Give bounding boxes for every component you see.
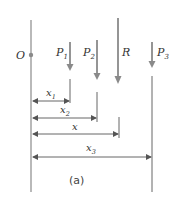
- force-diagram: O P1 P2 R P3 x1 x2 x: [0, 0, 177, 200]
- force-p1-label: P1: [55, 46, 68, 61]
- arrow-down-icon: [149, 61, 156, 68]
- dimension-x1: x1: [33, 87, 69, 101]
- dimension-x: x: [33, 121, 118, 134]
- svg-text:x1: x1: [46, 87, 56, 101]
- svg-text:x3: x3: [86, 142, 96, 156]
- force-p2-label: P2: [82, 46, 95, 61]
- svg-text:x: x: [72, 121, 78, 132]
- force-r: R: [115, 18, 131, 138]
- origin-label: O: [16, 49, 25, 62]
- force-p3-label: P3: [156, 46, 169, 61]
- force-p3: P3: [149, 42, 170, 192]
- origin-point: [29, 53, 33, 57]
- svg-text:x2: x2: [60, 104, 70, 118]
- force-p2: P2: [82, 40, 101, 122]
- dimension-x2: x2: [33, 104, 96, 118]
- origin-axis: O: [16, 20, 33, 192]
- arrow-down-icon: [115, 76, 122, 84]
- force-r-label: R: [121, 46, 130, 59]
- force-p1: P1: [55, 42, 74, 103]
- figure-caption: (a): [69, 174, 84, 187]
- dimension-x3: x3: [33, 142, 151, 157]
- arrow-down-icon: [94, 73, 101, 80]
- arrow-down-icon: [67, 64, 74, 71]
